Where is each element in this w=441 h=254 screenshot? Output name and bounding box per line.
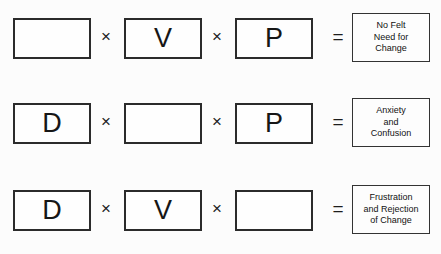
factor-box-row1-col2: V [124,18,202,59]
equals-operator-icon: = [328,27,348,46]
equation-row-3: D × V × = Frustration and Rejection of C… [0,182,441,238]
factor-label: D [42,197,62,224]
equals-operator-icon: = [328,199,348,218]
multiply-operator-icon: × [207,113,227,130]
factor-box-row1-col1 [13,18,91,59]
equation-row-1: × V × P = No Felt Need for Change [0,10,441,66]
equals-operator-icon: = [328,112,348,131]
result-label: Anxiety and Confusion [369,105,414,140]
factor-box-row1-col3: P [235,18,313,59]
factor-box-row2-col2 [124,103,202,144]
multiply-operator-icon: × [96,200,116,217]
factor-box-row2-col3: P [235,103,313,144]
multiply-operator-icon: × [207,28,227,45]
multiply-operator-icon: × [96,113,116,130]
change-formula-diagram: × V × P = No Felt Need for Change D × × … [0,0,441,254]
result-label: Frustration and Rejection of Change [361,192,420,227]
result-box-row2: Anxiety and Confusion [352,98,430,147]
factor-box-row3-col2: V [124,190,202,231]
factor-label: P [265,25,283,52]
factor-label: V [154,197,172,224]
result-box-row1: No Felt Need for Change [352,13,430,62]
factor-label: P [265,110,283,137]
multiply-operator-icon: × [96,28,116,45]
factor-label: V [154,25,172,52]
multiply-operator-icon: × [207,200,227,217]
factor-box-row2-col1: D [13,103,91,144]
factor-box-row3-col3 [235,190,313,231]
result-label: No Felt Need for Change [372,20,411,55]
factor-box-row3-col1: D [13,190,91,231]
equation-row-2: D × × P = Anxiety and Confusion [0,95,441,151]
result-box-row3: Frustration and Rejection of Change [352,185,430,234]
factor-label: D [42,110,62,137]
